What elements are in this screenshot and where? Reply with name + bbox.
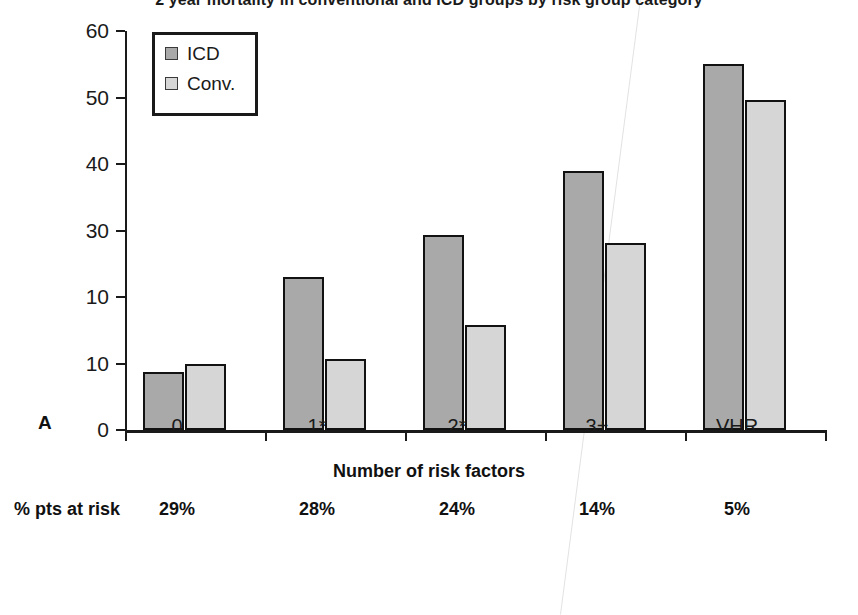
bar-conv-0 — [185, 364, 226, 430]
y-axis-line — [125, 31, 127, 430]
x-tick-label: 1* — [308, 415, 327, 438]
panel-label: A — [38, 412, 52, 434]
legend-swatch-icd — [165, 47, 178, 60]
legend-swatch-conv — [165, 77, 178, 90]
y-tick — [116, 97, 125, 99]
legend-label-conv: Conv. — [187, 74, 235, 93]
bar-icd-VHR — [703, 64, 744, 430]
x-tick — [125, 430, 127, 441]
x-tick — [685, 430, 687, 441]
y-tick — [116, 230, 125, 232]
x-tick-label: 2* — [448, 415, 467, 438]
risk-row: % pts at risk 29%28%24%14%5% — [0, 499, 858, 525]
legend-label-icd: ICD — [187, 44, 220, 63]
risk-value: 29% — [159, 499, 195, 520]
y-tick-label: 40 — [0, 152, 109, 176]
x-tick — [825, 430, 827, 441]
x-axis-title: Number of risk factors — [0, 461, 858, 482]
bar-conv-2 — [465, 325, 506, 430]
y-tick-label: 50 — [0, 86, 109, 110]
x-tick — [265, 430, 267, 441]
y-tick — [116, 296, 125, 298]
bar-conv-VHR — [745, 100, 786, 430]
y-tick — [116, 30, 125, 32]
y-tick-label: 10 — [0, 285, 109, 309]
bar-icd-3 — [563, 171, 604, 430]
y-tick-label: 60 — [0, 19, 109, 43]
x-tick-label: VHR — [716, 415, 758, 438]
x-tick — [405, 430, 407, 441]
legend-item-conv: Conv. — [165, 74, 255, 93]
risk-value: 14% — [579, 499, 615, 520]
y-tick — [116, 363, 125, 365]
risk-row-label: % pts at risk — [14, 499, 120, 520]
chart-title: 2 year mortality in conventional and ICD… — [0, 0, 858, 9]
y-tick-label: 10 — [0, 352, 109, 376]
risk-value: 28% — [299, 499, 335, 520]
bar-icd-1 — [283, 277, 324, 430]
x-tick-label: 3+ — [586, 415, 609, 438]
chart-legend: ICD Conv. — [152, 32, 258, 116]
y-tick-label: 30 — [0, 219, 109, 243]
risk-value: 24% — [439, 499, 475, 520]
legend-item-icd: ICD — [165, 44, 255, 63]
bar-conv-1 — [325, 359, 366, 430]
x-tick — [545, 430, 547, 441]
y-tick — [116, 429, 125, 431]
y-tick — [116, 163, 125, 165]
bar-conv-3 — [605, 243, 646, 430]
risk-value: 5% — [724, 499, 750, 520]
bar-icd-2 — [423, 235, 464, 430]
y-tick-label: 0 — [0, 418, 109, 442]
x-tick-label: 0 — [171, 415, 182, 438]
